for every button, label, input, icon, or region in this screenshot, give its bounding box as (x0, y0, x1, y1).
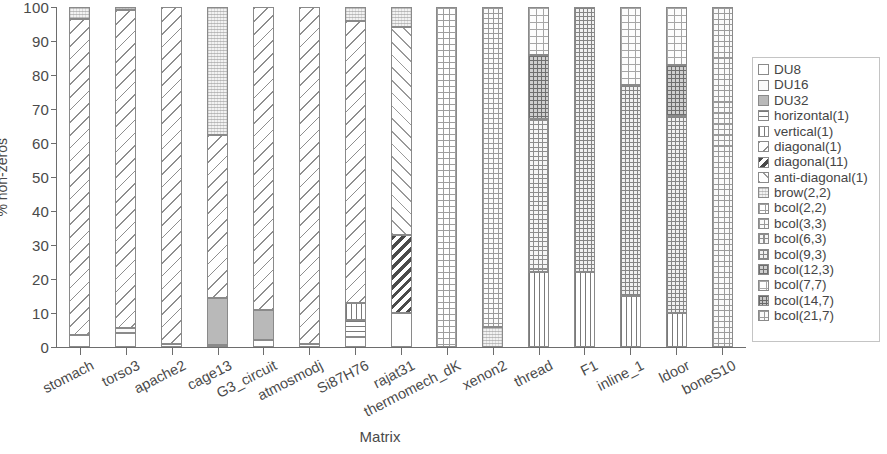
legend-item[interactable]: anti-diagonal(1) (758, 170, 876, 185)
legend-swatch-icon (758, 157, 769, 168)
bar-segment (482, 327, 503, 347)
bar-segment (712, 7, 733, 347)
bar-f1 (574, 7, 595, 347)
x-axis-label: xenon2 (459, 357, 509, 393)
bar-apache2 (161, 7, 182, 347)
bar-segment (161, 7, 182, 344)
x-axis-tick (584, 348, 585, 355)
legend-item[interactable]: bcol(3,3) (758, 216, 876, 231)
bar-segment (574, 272, 595, 347)
bar-segment (345, 7, 366, 21)
x-axis-label: apache2 (131, 357, 188, 397)
legend-item[interactable]: bcol(14,7) (758, 293, 876, 308)
x-axis-label: stomach (40, 357, 96, 396)
legend-item[interactable]: diagonal(11) (758, 154, 876, 169)
y-axis-tick-label: 70 (32, 101, 49, 118)
legend-swatch-icon (758, 187, 769, 198)
legend-item[interactable]: bcol(9,3) (758, 247, 876, 262)
x-axis-tick (309, 348, 310, 355)
bar-cage13 (207, 7, 228, 347)
legend-swatch-icon (758, 233, 769, 244)
bar-segment (299, 344, 320, 347)
bar-segment (253, 7, 274, 310)
x-axis-tick (493, 348, 494, 355)
x-axis-tick (355, 348, 356, 355)
bar-segment (482, 7, 503, 327)
bar-segment (253, 340, 274, 347)
x-axis-tick (263, 348, 264, 355)
legend-label: brow(2,2) (774, 186, 831, 200)
legend-item[interactable]: DU8 (758, 62, 876, 77)
legend-item[interactable]: DU32 (758, 93, 876, 108)
legend-label: bcol(2,2) (774, 201, 827, 215)
legend-item[interactable]: bcol(6,3) (758, 231, 876, 246)
y-axis-tick-label: 90 (32, 33, 49, 50)
legend-label: vertical(1) (774, 125, 833, 139)
x-axis-title: Matrix (0, 428, 760, 445)
bar-thread (528, 7, 549, 347)
legend-swatch-icon (758, 95, 769, 106)
bar-segment (528, 272, 549, 347)
x-axis-tick (172, 348, 173, 355)
y-axis-title: % non-zeros (0, 138, 10, 217)
y-axis-tick-label: 60 (32, 135, 49, 152)
legend-swatch-icon (758, 310, 769, 321)
legend-label: bcol(3,3) (774, 217, 827, 231)
x-axis-tick (722, 348, 723, 355)
legend-label: DU32 (774, 94, 809, 108)
bar-segment (666, 116, 687, 313)
bar-rajat31 (391, 7, 412, 347)
bar-segment (161, 344, 182, 347)
y-axis-tick-label: 50 (32, 169, 49, 186)
x-axis-tick (218, 348, 219, 355)
bar-ldoor (666, 7, 687, 347)
bar-segment (528, 7, 549, 55)
x-axis-tick (630, 348, 631, 355)
legend-swatch-icon (758, 172, 769, 183)
legend-label: bcol(7,7) (774, 278, 827, 292)
legend-item[interactable]: vertical(1) (758, 124, 876, 139)
bar-segment (528, 55, 549, 120)
legend-swatch-icon (758, 280, 769, 291)
bar-segment (620, 85, 641, 296)
x-axis-tick (80, 348, 81, 355)
bar-segment (115, 328, 136, 333)
bar-segment (207, 7, 228, 135)
bar-segment (345, 320, 366, 337)
bar-thermomech-dk (436, 7, 457, 347)
legend-item[interactable]: bcol(7,7) (758, 277, 876, 292)
y-axis-tick-label: 10 (32, 305, 49, 322)
bar-segment (436, 7, 457, 347)
bar-segment (391, 27, 412, 234)
bar-segment (69, 335, 90, 347)
bar-xenon2 (482, 7, 503, 347)
y-axis-tick-label: 20 (32, 271, 49, 288)
legend-item[interactable]: brow(2,2) (758, 185, 876, 200)
legend-swatch-icon (758, 126, 769, 137)
legend-swatch-icon (758, 264, 769, 275)
legend-item[interactable]: bcol(2,2) (758, 201, 876, 216)
bar-segment (345, 337, 366, 347)
bar-segment (253, 310, 274, 341)
chart-legend: DU8DU16DU32horizontal(1)vertical(1)diago… (752, 57, 880, 342)
y-axis-tick-label: 100 (23, 0, 49, 16)
y-axis-tick-label: 80 (32, 67, 49, 84)
bar-bones10 (712, 7, 733, 347)
legend-swatch-icon (758, 80, 769, 91)
legend-label: bcol(9,3) (774, 248, 827, 262)
legend-item[interactable]: bcol(21,7) (758, 308, 876, 323)
legend-swatch-icon (758, 110, 769, 121)
bar-segment (207, 298, 228, 346)
bar-segment (299, 7, 320, 344)
legend-item[interactable]: horizontal(1) (758, 108, 876, 123)
legend-item[interactable]: DU16 (758, 77, 876, 92)
legend-item[interactable]: bcol(12,3) (758, 262, 876, 277)
legend-label: bcol(6,3) (774, 232, 827, 246)
x-axis-tick (126, 348, 127, 355)
bar-si87h76 (345, 7, 366, 347)
legend-label: bcol(14,7) (774, 294, 834, 308)
bar-segment (345, 303, 366, 320)
legend-item[interactable]: diagonal(1) (758, 139, 876, 154)
legend-swatch-icon (758, 203, 769, 214)
bar-segment (391, 313, 412, 347)
